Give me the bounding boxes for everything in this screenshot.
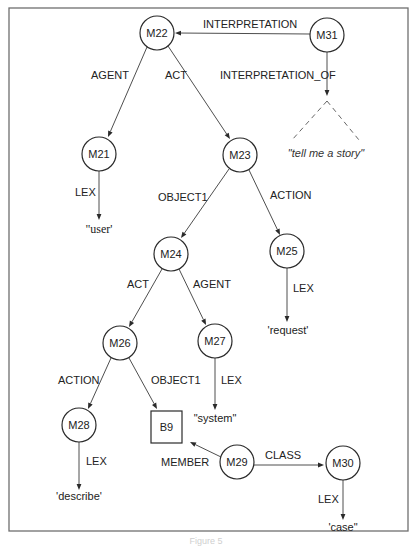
edge-label: AGENT xyxy=(193,278,231,290)
edges-layer: INTERPRETATIONINTERPRETATION_OFAGENTACTL… xyxy=(58,18,345,520)
arrowhead-icon xyxy=(201,319,206,325)
dashed-subtree-triangle xyxy=(292,101,359,140)
edge-class: CLASS xyxy=(254,449,324,467)
lex-system: "system" xyxy=(194,412,237,424)
node-label: M24 xyxy=(160,248,181,260)
node-m22: M22 xyxy=(140,16,174,50)
node-label: M30 xyxy=(332,457,353,469)
edge-label: LEX xyxy=(318,493,339,505)
arrowhead-icon xyxy=(97,214,102,220)
edge-label: LEX xyxy=(293,282,314,294)
node-label: M29 xyxy=(226,456,247,468)
arrowhead-icon xyxy=(181,232,186,238)
node-m28: M28 xyxy=(62,408,96,442)
edge-label: ACT xyxy=(127,278,149,290)
edge-action: ACTION xyxy=(58,358,111,409)
edge-label: MEMBER xyxy=(161,456,209,468)
arrowhead-icon xyxy=(129,321,134,327)
node-label: M22 xyxy=(146,27,167,39)
edge-lex: LEX xyxy=(285,268,315,322)
arrowhead-icon xyxy=(225,133,230,139)
edge-line xyxy=(179,269,203,320)
arrowhead-icon xyxy=(285,316,290,322)
edge-label: INTERPRETATION_OF xyxy=(220,69,336,81)
arrowhead-icon xyxy=(152,403,157,409)
arrowhead-icon xyxy=(108,131,113,137)
node-label: M26 xyxy=(109,337,130,349)
edge-label: AGENT xyxy=(91,69,129,81)
edge-label: LEX xyxy=(75,186,96,198)
edge-label: OBJECT1 xyxy=(158,191,208,203)
node-m23: M23 xyxy=(223,138,257,172)
lex-describe: 'describe' xyxy=(56,490,102,502)
arrowhead-icon xyxy=(341,514,346,520)
node-m21: M21 xyxy=(82,137,116,171)
dashed-right-line xyxy=(327,101,359,140)
edge-lex: LEX xyxy=(213,358,243,410)
edge-label: CLASS xyxy=(265,449,301,461)
edge-interpretation: INTERPRETATION xyxy=(175,18,310,35)
arrowhead-icon xyxy=(275,229,280,235)
edge-line xyxy=(168,46,227,134)
node-m27: M27 xyxy=(198,324,232,358)
arrowhead-icon xyxy=(175,31,181,36)
nodes-layer: M22M31M21M23M24M25M26M27M28B9M29M30 xyxy=(62,16,360,480)
edge-lex: LEX xyxy=(75,171,101,220)
edge-object1: OBJECT1 xyxy=(129,358,201,409)
edge-label: LEX xyxy=(86,455,107,467)
edge-object1: OBJECT1 xyxy=(158,169,229,238)
lex-tell-me-a-story: "tell me a story" xyxy=(288,147,365,159)
edge-label: INTERPRETATION xyxy=(203,18,297,30)
edge-agent: AGENT xyxy=(91,47,147,137)
edge-lex: LEX xyxy=(318,480,345,520)
edge-line xyxy=(132,269,162,322)
arrowhead-icon xyxy=(325,90,330,96)
node-m24: M24 xyxy=(154,237,188,271)
edge-label: ACTION xyxy=(270,189,312,201)
edge-interpretation-of: INTERPRETATION_OF xyxy=(220,52,336,96)
arrowhead-icon xyxy=(213,404,218,410)
arrowhead-icon xyxy=(88,403,93,409)
lex-request: 'request' xyxy=(268,324,309,336)
edge-act: ACT xyxy=(165,46,230,139)
edge-line xyxy=(181,33,310,34)
node-label: M21 xyxy=(88,148,109,160)
node-b9: B9 xyxy=(151,411,182,443)
node-label: M23 xyxy=(229,149,250,161)
edge-lex: LEX xyxy=(77,442,108,490)
dashed-left-line xyxy=(292,101,327,140)
lex-case: 'case" xyxy=(328,521,357,533)
node-label: M25 xyxy=(276,245,297,257)
figure-caption: Figure 5 xyxy=(189,536,222,546)
edge-act: ACT xyxy=(127,269,162,327)
node-m30: M30 xyxy=(326,446,360,480)
edge-member: MEMBER xyxy=(161,442,221,468)
node-label: M28 xyxy=(68,419,89,431)
node-m26: M26 xyxy=(103,326,137,360)
node-label: B9 xyxy=(160,421,173,433)
edge-label: OBJECT1 xyxy=(151,374,201,386)
arrowhead-icon xyxy=(190,442,196,447)
edge-agent: AGENT xyxy=(179,269,231,325)
edge-action: ACTION xyxy=(249,170,312,235)
node-m29: M29 xyxy=(220,445,254,479)
edge-label: ACTION xyxy=(58,374,100,386)
node-m31: M31 xyxy=(310,18,344,52)
node-m25: M25 xyxy=(270,234,304,268)
edge-line xyxy=(110,47,147,131)
arrowhead-icon xyxy=(318,463,324,468)
lex-user: "user' xyxy=(85,222,112,236)
edge-label: LEX xyxy=(221,374,242,386)
edge-label: ACT xyxy=(165,69,187,81)
node-label: M27 xyxy=(204,335,225,347)
node-label: M31 xyxy=(316,29,337,41)
semantic-network-diagram: INTERPRETATIONINTERPRETATION_OFAGENTACTL… xyxy=(0,0,413,548)
